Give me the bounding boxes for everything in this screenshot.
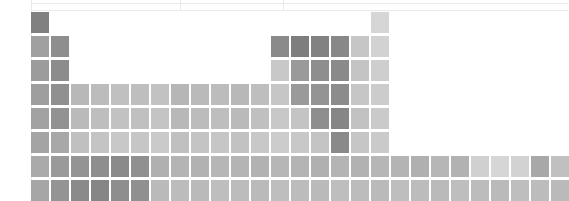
heatmap-cell-sc[interactable] — [71, 84, 89, 105]
heatmap-cell-ti[interactable] — [91, 84, 109, 105]
heatmap-cell-n[interactable] — [311, 36, 329, 57]
heatmap-cell-cl[interactable] — [351, 60, 369, 81]
heatmap-cell-b[interactable] — [271, 36, 289, 57]
heatmap-cell-md[interactable] — [531, 180, 549, 201]
heatmap-cell-sn[interactable] — [291, 108, 309, 129]
heatmap-cell-ds[interactable] — [211, 156, 229, 177]
heatmap-cell-pm[interactable] — [91, 180, 109, 201]
heatmap-cell-cm[interactable] — [431, 180, 449, 201]
heatmap-cell-rn[interactable] — [371, 132, 389, 153]
heatmap-cell-si[interactable] — [291, 60, 309, 81]
heatmap-cell-rb[interactable] — [31, 108, 49, 129]
heatmap-cell-ts[interactable] — [351, 156, 369, 177]
heatmap-cell-lr-ext-7[interactable] — [511, 156, 529, 177]
heatmap-cell-ce[interactable] — [31, 180, 49, 201]
heatmap-cell-li[interactable] — [31, 36, 49, 57]
heatmap-cell-lr-ext-9[interactable] — [551, 156, 569, 177]
heatmap-cell-o[interactable] — [331, 36, 349, 57]
heatmap-cell-cs[interactable] — [31, 132, 49, 153]
heatmap-cell-h[interactable] — [31, 12, 49, 33]
heatmap-cell-bh[interactable] — [151, 156, 169, 177]
heatmap-cell-pd[interactable] — [211, 108, 229, 129]
heatmap-cell-fm[interactable] — [511, 180, 529, 201]
heatmap-cell-ho[interactable] — [211, 180, 229, 201]
heatmap-cell-k[interactable] — [31, 84, 49, 105]
heatmap-cell-mo[interactable] — [131, 108, 149, 129]
heatmap-cell-sr[interactable] — [51, 108, 69, 129]
heatmap-cell-lr-ext-6[interactable] — [491, 156, 509, 177]
heatmap-cell-hg[interactable] — [251, 132, 269, 153]
heatmap-cell-yb[interactable] — [271, 180, 289, 201]
heatmap-cell-he[interactable] — [371, 12, 389, 33]
heatmap-cell-la[interactable] — [71, 132, 89, 153]
heatmap-cell-mg[interactable] — [51, 60, 69, 81]
heatmap-cell-cn[interactable] — [251, 156, 269, 177]
heatmap-cell-dy[interactable] — [191, 180, 209, 201]
heatmap-cell-er[interactable] — [231, 180, 249, 201]
heatmap-cell-ge[interactable] — [291, 84, 309, 105]
heatmap-cell-sm[interactable] — [111, 180, 129, 201]
heatmap-cell-ni[interactable] — [211, 84, 229, 105]
heatmap-cell-v[interactable] — [111, 84, 129, 105]
heatmap-cell-rh[interactable] — [191, 108, 209, 129]
heatmap-cell-hs[interactable] — [171, 156, 189, 177]
heatmap-cell-fe[interactable] — [171, 84, 189, 105]
heatmap-cell-es[interactable] — [491, 180, 509, 201]
heatmap-cell-xe[interactable] — [371, 108, 389, 129]
heatmap-cell-pr[interactable] — [51, 180, 69, 201]
heatmap-cell-nb[interactable] — [111, 108, 129, 129]
heatmap-cell-fr[interactable] — [31, 156, 49, 177]
heatmap-cell-np[interactable] — [371, 180, 389, 201]
heatmap-cell-s[interactable] — [331, 60, 349, 81]
heatmap-cell-lr-ext-2[interactable] — [411, 156, 429, 177]
heatmap-cell-pt[interactable] — [211, 132, 229, 153]
heatmap-cell-u[interactable] — [351, 180, 369, 201]
heatmap-cell-ru[interactable] — [171, 108, 189, 129]
heatmap-cell-fl[interactable] — [291, 156, 309, 177]
heatmap-cell-te[interactable] — [331, 108, 349, 129]
heatmap-cell-na[interactable] — [31, 60, 49, 81]
heatmap-cell-tc[interactable] — [151, 108, 169, 129]
heatmap-cell-ga[interactable] — [271, 84, 289, 105]
heatmap-cell-ba[interactable] — [51, 132, 69, 153]
heatmap-cell-ta[interactable] — [111, 132, 129, 153]
heatmap-cell-ca[interactable] — [51, 84, 69, 105]
heatmap-cell-f[interactable] — [351, 36, 369, 57]
heatmap-cell-p[interactable] — [311, 60, 329, 81]
heatmap-cell-bi[interactable] — [311, 132, 329, 153]
heatmap-cell-y[interactable] — [71, 108, 89, 129]
heatmap-cell-pu[interactable] — [391, 180, 409, 201]
heatmap-cell-kr[interactable] — [371, 84, 389, 105]
heatmap-cell-co[interactable] — [191, 84, 209, 105]
heatmap-cell-mc[interactable] — [311, 156, 329, 177]
heatmap-cell-cu[interactable] — [231, 84, 249, 105]
heatmap-cell-ra[interactable] — [51, 156, 69, 177]
heatmap-cell-po[interactable] — [331, 132, 349, 153]
heatmap-cell-lu[interactable] — [291, 180, 309, 201]
heatmap-cell-bk[interactable] — [451, 180, 469, 201]
heatmap-cell-pb[interactable] — [291, 132, 309, 153]
heatmap-cell-re[interactable] — [151, 132, 169, 153]
heatmap-cell-au[interactable] — [231, 132, 249, 153]
heatmap-cell-hf[interactable] — [91, 132, 109, 153]
heatmap-cell-os[interactable] — [171, 132, 189, 153]
heatmap-cell-in[interactable] — [271, 108, 289, 129]
heatmap-cell-tl[interactable] — [271, 132, 289, 153]
heatmap-cell-rf[interactable] — [91, 156, 109, 177]
heatmap-cell-eu[interactable] — [131, 180, 149, 201]
heatmap-cell-i[interactable] — [351, 108, 369, 129]
heatmap-cell-se[interactable] — [331, 84, 349, 105]
heatmap-cell-br[interactable] — [351, 84, 369, 105]
heatmap-cell-al[interactable] — [271, 60, 289, 81]
heatmap-cell-be[interactable] — [51, 36, 69, 57]
heatmap-cell-ne[interactable] — [371, 36, 389, 57]
heatmap-cell-db[interactable] — [111, 156, 129, 177]
heatmap-cell-pa[interactable] — [331, 180, 349, 201]
heatmap-cell-no[interactable] — [551, 180, 569, 201]
heatmap-cell-og[interactable] — [371, 156, 389, 177]
heatmap-cell-lr-ext-5[interactable] — [471, 156, 489, 177]
heatmap-cell-sb[interactable] — [311, 108, 329, 129]
heatmap-cell-ag[interactable] — [231, 108, 249, 129]
heatmap-cell-cd[interactable] — [251, 108, 269, 129]
heatmap-cell-sg[interactable] — [131, 156, 149, 177]
